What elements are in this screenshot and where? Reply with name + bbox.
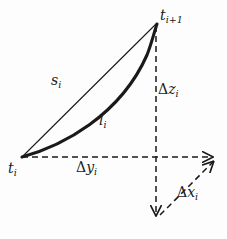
label-chord-s-i: si [51,73,61,89]
label-point-t-i: ti [8,161,17,177]
diagram-svg [0,0,227,239]
figure-canvas: ti+1 ti si li Δzi Δyi Δxi [0,0,227,239]
label-point-t-i-plus-1: ti+1 [160,8,183,24]
label-delta-y-i: Δyi [76,160,97,176]
chord-line-s-i [22,24,156,157]
label-delta-z-i: Δzi [158,82,179,98]
label-delta-x-i: Δxi [177,185,198,201]
label-arc-l-i: li [99,113,107,129]
